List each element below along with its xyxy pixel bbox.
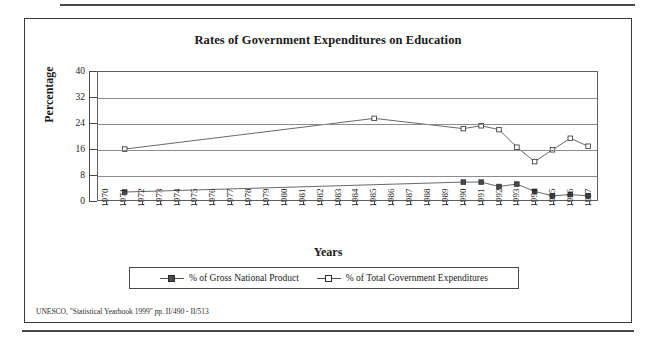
x-axis-label-1971: 1971 xyxy=(119,188,128,207)
figure-frame: Rates of Government Expenditures on Educ… xyxy=(24,18,632,323)
x-axis-label-1987: 1987 xyxy=(405,188,414,207)
data-point-marker xyxy=(497,127,502,132)
x-axis-label-1989: 1989 xyxy=(441,188,450,207)
data-point-marker xyxy=(515,145,520,150)
y-axis-label-40: 40 xyxy=(61,66,85,76)
x-axis-label-1981: 1981 xyxy=(298,188,307,207)
open-square-marker xyxy=(317,274,341,283)
plot-series-canvas xyxy=(98,72,597,200)
legend-item-1[interactable]: % of Total Government Expenditures xyxy=(317,273,488,283)
x-axis-label-1994: 1994 xyxy=(530,188,539,207)
y-axis-label-24: 24 xyxy=(61,118,85,128)
y-axis-line xyxy=(89,71,90,202)
x-axis-label-1996: 1996 xyxy=(566,188,575,207)
x-axis-label-1979: 1979 xyxy=(262,188,271,207)
y-tick-16 xyxy=(89,149,97,150)
x-axis-label-1977: 1977 xyxy=(226,188,235,207)
data-point-marker xyxy=(479,180,484,185)
y-axis-label-16: 16 xyxy=(61,144,85,154)
x-axis-label-1984: 1984 xyxy=(351,188,360,207)
data-point-marker xyxy=(568,136,573,141)
legend-label: % of Total Government Expenditures xyxy=(346,273,488,283)
x-axis-label-1973: 1973 xyxy=(155,188,164,207)
x-axis-label-1992: 1992 xyxy=(495,188,504,207)
source-note: UNESCO, "Statistical Yearbook 1999" pp. … xyxy=(36,307,209,316)
data-point-marker xyxy=(372,116,377,121)
x-axis-label-1972: 1972 xyxy=(137,188,146,207)
x-axis-label-1988: 1988 xyxy=(423,188,432,207)
x-axis-label-1985: 1985 xyxy=(369,188,378,207)
x-axis-label-1986: 1986 xyxy=(387,188,396,207)
data-point-marker xyxy=(461,126,466,131)
plot-area xyxy=(97,71,598,201)
y-tick-8 xyxy=(89,175,97,176)
data-point-marker xyxy=(461,180,466,185)
x-axis-label-1993: 1993 xyxy=(512,188,521,207)
filled-square-marker xyxy=(160,274,184,283)
page-rule-bottom xyxy=(22,330,634,332)
x-axis-label-1995: 1995 xyxy=(548,188,557,207)
data-point-marker xyxy=(515,182,520,187)
legend-item-0[interactable]: % of Gross National Product xyxy=(160,273,299,283)
page-rule-top xyxy=(60,4,635,6)
gridline-8 xyxy=(98,176,597,177)
x-axis-label-1990: 1990 xyxy=(459,188,468,207)
x-axis-label-1982: 1982 xyxy=(316,188,325,207)
y-axis-title: Percentage xyxy=(42,43,57,147)
x-axis-label-1978: 1978 xyxy=(244,188,253,207)
x-axis-label-1976: 1976 xyxy=(208,188,217,207)
gridline-32 xyxy=(98,98,597,99)
data-point-marker xyxy=(532,159,537,164)
y-axis-label-32: 32 xyxy=(61,92,85,102)
x-axis-label-1975: 1975 xyxy=(190,188,199,207)
y-axis-label-0: 0 xyxy=(61,196,85,206)
x-axis-label-1980: 1980 xyxy=(280,188,289,207)
x-axis-title: Years xyxy=(25,245,631,260)
data-point-marker xyxy=(586,144,591,149)
y-tick-24 xyxy=(89,123,97,124)
y-tick-0 xyxy=(89,201,97,202)
y-axis-label-8: 8 xyxy=(61,170,85,180)
x-axis-label-1997: 1997 xyxy=(584,188,593,207)
gridline-16 xyxy=(98,150,597,151)
chart-legend: % of Gross National Product% of Total Go… xyxy=(129,267,519,289)
x-axis-label-1970: 1970 xyxy=(101,188,110,207)
chart-title: Rates of Government Expenditures on Educ… xyxy=(25,33,631,48)
gridline-24 xyxy=(98,124,597,125)
x-axis-label-1974: 1974 xyxy=(173,188,182,207)
x-axis-label-1983: 1983 xyxy=(334,188,343,207)
y-tick-32 xyxy=(89,97,97,98)
y-axis-tick-labels: 0816243240 xyxy=(57,19,85,322)
legend-label: % of Gross National Product xyxy=(189,273,299,283)
y-tick-40 xyxy=(89,71,97,72)
x-axis-label-1991: 1991 xyxy=(477,188,486,207)
